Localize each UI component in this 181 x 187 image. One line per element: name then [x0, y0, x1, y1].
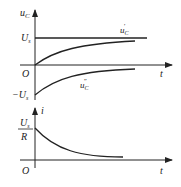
- neg-us-label: −Us: [12, 89, 29, 101]
- top-x-label: t: [160, 68, 163, 79]
- top-origin-label: O: [22, 68, 29, 79]
- current-decay-curve: [35, 128, 123, 157]
- top-plot: uC Us O −Us t uC′ uC″: [12, 7, 172, 101]
- us-label: Us: [21, 32, 31, 44]
- bottom-origin-label: O: [22, 165, 29, 176]
- initial-current-num: Us: [20, 117, 30, 129]
- top-y-label: uC: [20, 7, 30, 20]
- bottom-plot: i Us R O t: [18, 105, 172, 176]
- bottom-y-label: i: [41, 105, 44, 116]
- uc-charging-curve: [35, 41, 135, 65]
- rc-charging-diagram: uC Us O −Us t uC′ uC″ i Us R O t: [0, 0, 181, 187]
- initial-current-den: R: [20, 131, 27, 142]
- bottom-x-label: t: [160, 165, 163, 176]
- uc-prime-label: uC′: [120, 22, 130, 36]
- uc-double-prime-label: uC″: [80, 77, 90, 91]
